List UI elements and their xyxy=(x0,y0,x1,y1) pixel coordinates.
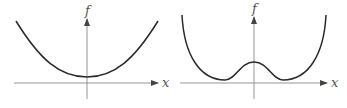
right-y-axis-label: f xyxy=(251,1,259,16)
right-panel: f x xyxy=(180,1,339,99)
figure: f x f x xyxy=(0,0,347,108)
left-x-axis-label: x xyxy=(162,75,170,90)
left-panel: f x xyxy=(14,3,170,99)
right-x-axis-label: x xyxy=(331,75,339,90)
left-y-axis-label: f xyxy=(84,3,92,18)
